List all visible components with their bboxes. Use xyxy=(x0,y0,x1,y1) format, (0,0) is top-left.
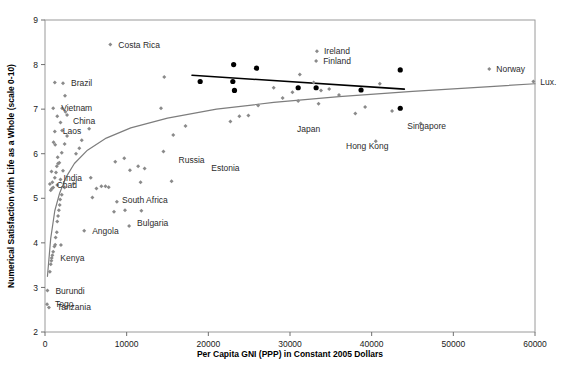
data-point-highlighted xyxy=(232,88,237,93)
x-axis-title: Per Capita GNI (PPP) in Constant 2005 Do… xyxy=(197,349,383,359)
data-point-highlighted xyxy=(314,85,319,90)
data-point-highlighted xyxy=(398,67,403,72)
y-tick-label: 8 xyxy=(33,60,38,70)
country-label: Costa Rica xyxy=(118,40,160,50)
x-tick-label: 30000 xyxy=(278,339,302,349)
country-label: Kenya xyxy=(60,253,84,263)
country-label: Ireland xyxy=(324,46,350,56)
y-tick-label: 9 xyxy=(33,15,38,25)
y-tick-label: 6 xyxy=(33,149,38,159)
data-point-highlighted xyxy=(358,87,363,92)
country-label: Bulgaria xyxy=(137,218,168,228)
data-point-highlighted xyxy=(230,79,235,84)
country-label: Russia xyxy=(179,155,205,165)
figure-container: 0100002000030000400005000060000 23456789… xyxy=(0,0,576,381)
country-label: Estonia xyxy=(211,163,240,173)
y-tick-label: 7 xyxy=(33,104,38,114)
y-axis-title: Numerical Satisfaction with Life as a Wh… xyxy=(6,64,16,288)
x-tick-label: 10000 xyxy=(115,339,139,349)
country-label: Chad xyxy=(57,180,78,190)
y-tick-label: 5 xyxy=(33,193,38,203)
country-label: Finland xyxy=(323,56,351,66)
country-label: Brazil xyxy=(71,78,92,88)
data-point-highlighted xyxy=(254,66,259,71)
country-label: Hong Kong xyxy=(346,141,389,151)
data-point-highlighted xyxy=(296,85,301,90)
country-label: Vietnam xyxy=(61,103,92,113)
country-label: Lux. xyxy=(540,77,556,87)
country-label: Japan xyxy=(297,124,320,134)
x-tick-label: 40000 xyxy=(360,339,384,349)
y-tick-label: 2 xyxy=(33,327,38,337)
country-label: Singapore xyxy=(407,121,446,131)
data-point-highlighted xyxy=(398,106,403,111)
y-tick-label: 3 xyxy=(33,283,38,293)
country-label: Tanzania xyxy=(57,302,91,312)
data-point-highlighted xyxy=(198,79,203,84)
country-label: China xyxy=(73,116,95,126)
y-tick-label: 4 xyxy=(33,238,38,248)
country-label: Laos xyxy=(63,126,81,136)
plot-background xyxy=(0,0,576,381)
data-point-highlighted xyxy=(231,62,236,67)
x-tick-label: 20000 xyxy=(197,339,221,349)
x-tick-label: 50000 xyxy=(442,339,466,349)
x-tick-label: 60000 xyxy=(523,339,547,349)
country-label: Burundi xyxy=(55,286,84,296)
x-tick-label: 0 xyxy=(43,339,48,349)
country-label: South Africa xyxy=(122,195,168,205)
scatter-plot: 0100002000030000400005000060000 23456789… xyxy=(0,0,576,381)
country-label: Angola xyxy=(92,226,119,236)
country-label: Norway xyxy=(496,64,526,74)
